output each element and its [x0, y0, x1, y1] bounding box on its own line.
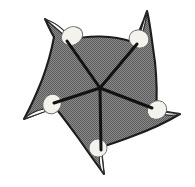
figure-root	[0, 0, 195, 187]
radial-center-node	[98, 86, 102, 90]
specimen-illustration	[0, 0, 195, 187]
radius-to-bottom	[100, 88, 101, 150]
pore-bottom	[89, 139, 107, 157]
